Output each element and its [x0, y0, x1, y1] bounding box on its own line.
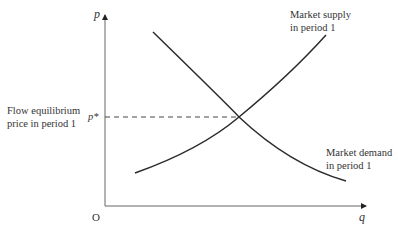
- supply-label-line2: in period 1: [290, 21, 351, 34]
- supply-label-line1: Market supply: [290, 8, 351, 21]
- equilibrium-description-line1: Flow equilibrium: [7, 104, 80, 117]
- y-axis-label: p: [94, 8, 100, 21]
- demand-label-line1: Market demand: [326, 146, 392, 159]
- x-axis-label: q: [359, 211, 365, 224]
- origin-label: O: [92, 211, 100, 224]
- demand-curve-label: Market demand in period 1: [326, 146, 392, 172]
- supply-curve-label: Market supply in period 1: [290, 8, 351, 34]
- supply-curve: [135, 35, 326, 173]
- demand-label-line2: in period 1: [326, 159, 392, 172]
- demand-curve: [153, 32, 346, 181]
- equilibrium-description-line2: price in period 1: [7, 117, 80, 130]
- equilibrium-description: Flow equilibrium price in period 1: [7, 104, 80, 130]
- equilibrium-price-symbol: p*: [88, 110, 99, 123]
